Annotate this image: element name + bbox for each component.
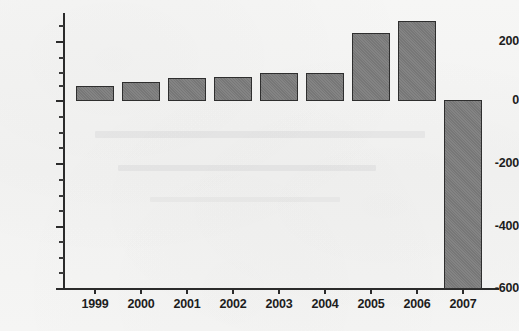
bar-2003 bbox=[260, 73, 298, 101]
x-axis-label-2006: 2006 bbox=[394, 298, 440, 311]
x-axis-label-2000: 2000 bbox=[118, 298, 164, 311]
y-axis-tick-major bbox=[56, 163, 65, 165]
x-axis-tick bbox=[94, 290, 96, 294]
y-axis-tick-minor bbox=[59, 179, 64, 181]
x-axis-tick bbox=[278, 290, 280, 294]
bar-2004 bbox=[306, 73, 344, 101]
x-axis-line bbox=[63, 288, 499, 290]
x-axis-label-2002: 2002 bbox=[210, 298, 256, 311]
y-axis-tick-minor bbox=[59, 132, 64, 134]
bar-2002 bbox=[214, 77, 252, 101]
y-axis-tick-major bbox=[56, 288, 65, 290]
y-axis-tick-minor bbox=[59, 72, 64, 74]
y-axis-tick-minor bbox=[59, 116, 64, 118]
bar-1999 bbox=[76, 86, 114, 101]
bar-chart: 200 0 -200 -400 -600 1999 2000 2001 2002… bbox=[0, 0, 519, 331]
y-axis-tick-minor bbox=[59, 272, 64, 274]
y-axis-tick-minor bbox=[59, 85, 64, 87]
y-axis-tick-minor bbox=[59, 195, 64, 197]
x-axis-label-2003: 2003 bbox=[256, 298, 302, 311]
x-axis-tick bbox=[186, 290, 188, 294]
bar-2001 bbox=[168, 78, 206, 101]
y-axis-line bbox=[63, 13, 65, 290]
bar-2005 bbox=[352, 33, 390, 101]
x-axis-label-2005: 2005 bbox=[348, 298, 394, 311]
y-axis-tick-major bbox=[56, 226, 65, 228]
y-axis-tick-minor bbox=[59, 147, 64, 149]
y-axis-tick-minor bbox=[59, 257, 64, 259]
bar-2007 bbox=[444, 100, 482, 289]
y-axis-tick-major bbox=[56, 41, 65, 43]
x-axis-label-1999: 1999 bbox=[72, 298, 118, 311]
bar-2000 bbox=[122, 82, 160, 101]
x-axis-tick bbox=[232, 290, 234, 294]
x-axis-tick bbox=[324, 290, 326, 294]
y-axis-tick-major bbox=[56, 100, 65, 102]
x-axis-label-2007: 2007 bbox=[440, 298, 486, 311]
y-axis-tick-minor bbox=[59, 210, 64, 212]
x-axis-tick bbox=[416, 290, 418, 294]
y-axis-tick-minor bbox=[59, 25, 64, 27]
x-axis-tick bbox=[140, 290, 142, 294]
x-axis-label-2001: 2001 bbox=[164, 298, 210, 311]
bar-2006 bbox=[398, 21, 436, 101]
x-axis-label-2004: 2004 bbox=[302, 298, 348, 311]
x-axis-tick bbox=[462, 290, 464, 294]
x-axis-tick bbox=[370, 290, 372, 294]
y-axis-tick-label: 200 bbox=[475, 35, 519, 48]
y-axis-tick-minor bbox=[59, 241, 64, 243]
y-axis-tick-minor bbox=[59, 57, 64, 59]
